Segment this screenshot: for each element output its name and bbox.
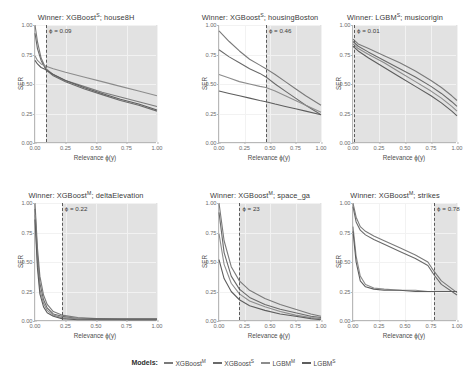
x-axis-tick-label: 1.00 (151, 323, 162, 329)
y-axis-label: SER (335, 70, 342, 98)
x-axis-tick-label: 0.50 (90, 145, 101, 151)
threshold-annotation: ϕ = 23 (242, 205, 259, 212)
series-line (353, 44, 457, 111)
x-axis-tick-label: 1.00 (315, 145, 326, 151)
x-axis-tick-label: 0.25 (239, 323, 250, 329)
y-axis-tick-label: 0.75 (205, 52, 216, 58)
x-axis-tick-label: 0.00 (213, 145, 224, 151)
x-axis-tick-label: 0.00 (29, 145, 40, 151)
threshold-dashed-line (434, 203, 435, 320)
threshold-dashed-line (62, 203, 63, 320)
x-axis-tick-label: 0.25 (373, 323, 384, 329)
threshold-dashed-line (354, 25, 355, 142)
y-axis-tick-label: 1.00 (21, 200, 32, 206)
x-axis-tick-label: 0.25 (373, 145, 384, 151)
series-line (35, 215, 157, 320)
x-axis-tick-label: 1.00 (151, 145, 162, 151)
legend-title: Models: (131, 359, 157, 366)
series-line (353, 231, 457, 291)
y-axis-tick-label: 1.00 (339, 22, 350, 28)
threshold-annotation: ϕ = 0.22 (65, 205, 88, 212)
threshold-annotation: ϕ = 0.78 (437, 205, 460, 212)
facet-title: Winner: XGBoostM; deltaElevation (12, 190, 160, 200)
series-line (219, 203, 321, 316)
series-line (35, 25, 157, 106)
gridline-vertical (157, 203, 158, 320)
threshold-dashed-line (266, 25, 267, 142)
plot-area: ϕ = 0.460.000.250.500.751.000.000.250.50… (218, 25, 320, 143)
threshold-dashed-line (46, 25, 47, 142)
y-axis-tick-label: 0.25 (339, 111, 350, 117)
x-axis-tick-label: 0.50 (399, 323, 410, 329)
facet-panel: Winner: LGBMS; musicoriginϕ = 0.010.000.… (330, 12, 460, 165)
facet-chart-figure: Winner: XGBoostS; house8Hϕ = 0.090.000.2… (0, 0, 467, 373)
series-line (353, 39, 457, 100)
x-axis-tick-label: 0.75 (121, 323, 132, 329)
y-axis-label: SER (17, 70, 24, 98)
series-lines (353, 25, 457, 143)
gridline-vertical (457, 203, 458, 320)
gridline-vertical (321, 25, 322, 142)
x-axis-label: Relevance ϕ(y) (34, 332, 156, 339)
series-line (35, 209, 157, 320)
legend-item[interactable]: XGBoostS (213, 359, 254, 367)
series-line (353, 46, 457, 116)
x-axis-tick-label: 0.00 (347, 323, 358, 329)
y-axis-tick-label: 0.75 (339, 230, 350, 236)
series-line (219, 91, 321, 115)
y-axis-tick-label: 0.25 (339, 289, 350, 295)
y-axis-label: SER (201, 70, 208, 98)
x-axis-tick-label: 0.50 (399, 145, 410, 151)
x-axis-tick-label: 0.50 (90, 323, 101, 329)
x-axis-tick-label: 0.25 (60, 145, 71, 151)
x-axis-label: Relevance ϕ(y) (34, 154, 156, 161)
y-axis-tick-label: 1.00 (205, 200, 216, 206)
threshold-dashed-line (239, 203, 240, 320)
series-line (35, 60, 157, 110)
y-axis-tick-label: 0.75 (205, 230, 216, 236)
facet-title: Winner: XGBoostS; house8H (12, 12, 160, 22)
plot-area: ϕ = 0.090.000.250.500.751.000.000.250.50… (34, 25, 156, 143)
series-line (35, 203, 157, 319)
x-axis-tick-label: 0.25 (60, 323, 71, 329)
x-axis-label: Relevance ϕ(y) (218, 332, 320, 339)
series-line (353, 42, 457, 107)
facet-panel: Winner: XGBoostS; housingBostonϕ = 0.460… (196, 12, 324, 165)
y-axis-tick-label: 0.75 (21, 52, 32, 58)
legend-item-label: LGBMM (272, 359, 295, 367)
threshold-annotation: ϕ = 0.46 (269, 27, 292, 34)
y-axis-label: SER (335, 248, 342, 276)
x-axis-tick-label: 0.75 (290, 145, 301, 151)
plot-area: ϕ = 0.010.000.250.500.751.000.000.250.50… (352, 25, 456, 143)
legend-swatch (164, 362, 173, 363)
facet-panel: Winner: XGBoostM; deltaElevationϕ = 0.22… (12, 190, 160, 343)
x-axis-tick-label: 1.00 (451, 145, 462, 151)
series-line (35, 220, 157, 320)
facet-title: Winner: LGBMS; musicorigin (330, 12, 460, 22)
legend-item[interactable]: XGBoostM (164, 359, 206, 367)
legend-item[interactable]: LGBMM (261, 359, 295, 367)
legend-item-label: XGBoostS (224, 359, 254, 367)
y-axis-tick-label: 0.25 (205, 289, 216, 295)
legend-item[interactable]: LGBMS (302, 359, 335, 367)
y-axis-tick-label: 0.25 (21, 289, 32, 295)
plot-area: ϕ = 230.000.250.500.751.000.000.250.500.… (218, 203, 320, 321)
y-axis-tick-label: 0.75 (339, 52, 350, 58)
series-lines (219, 203, 321, 321)
gridline-vertical (321, 203, 322, 320)
x-axis-tick-label: 0.75 (425, 323, 436, 329)
y-axis-tick-label: 1.00 (205, 22, 216, 28)
y-axis-tick-label: 0.75 (21, 230, 32, 236)
gridline-vertical (457, 25, 458, 142)
gridline-vertical (157, 25, 158, 142)
threshold-annotation: ϕ = 0.09 (49, 27, 72, 34)
x-axis-label: Relevance ϕ(y) (352, 154, 456, 161)
y-axis-label: SER (201, 248, 208, 276)
legend-item-label: XGBoostM (175, 359, 205, 367)
series-lines (353, 203, 457, 321)
series-line (219, 212, 321, 317)
legend-swatch (302, 362, 311, 363)
x-axis-tick-label: 0.00 (29, 323, 40, 329)
series-line (353, 203, 457, 293)
x-axis-tick-label: 0.00 (347, 145, 358, 151)
